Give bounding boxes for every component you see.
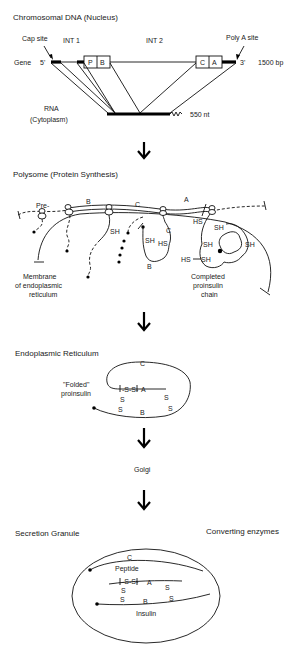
s-label: S xyxy=(168,405,173,412)
down-arrow-icon xyxy=(138,312,150,330)
folded-label-1: "Folded" xyxy=(63,381,90,388)
exon-b-label: B xyxy=(100,59,105,66)
s-label: S xyxy=(120,596,125,603)
cap-site-label: Cap site xyxy=(22,35,48,43)
s-label: S xyxy=(120,396,125,403)
gene-section-title: Chromosomal DNA (Nucleus) xyxy=(13,13,118,22)
folded-label-2: proinsulin xyxy=(61,390,91,398)
insulin-label: Insulin xyxy=(136,610,156,617)
sh-label: SH xyxy=(203,241,213,248)
five-prime-label: 5' xyxy=(40,59,45,66)
mrna-3-dashed xyxy=(212,206,265,211)
sh-label: SH xyxy=(245,241,255,248)
golgi-label: Golgi xyxy=(134,466,151,474)
cap-arrowhead-icon xyxy=(49,54,53,60)
granule-contents: C Peptide -S-S- A S S S S B Insulin xyxy=(88,554,210,617)
polysome-c-label: C xyxy=(135,201,140,208)
s-label: S xyxy=(165,584,170,591)
exon-a-label: A xyxy=(212,59,217,66)
sh-label: SH xyxy=(214,224,224,231)
exon-p-label: P xyxy=(88,59,93,66)
sh-label: SH xyxy=(145,237,155,244)
poly-a-site-label: Poly A site xyxy=(226,34,258,42)
secretion-granule-outline xyxy=(72,549,220,643)
chain-c-label: C xyxy=(166,227,171,234)
hs-label: HS xyxy=(158,240,168,247)
chain-b-label: B xyxy=(147,263,152,270)
polysome-b-label: B xyxy=(86,198,91,205)
peptide-label: Peptide xyxy=(115,565,139,573)
s-label: S xyxy=(164,394,169,401)
stop-marker xyxy=(202,204,206,216)
splicing-lines xyxy=(51,63,236,113)
completed-label-1: Completed xyxy=(191,273,225,281)
er-section-title: Endoplasmic Reticulum xyxy=(15,349,99,358)
three-prime-label: 3' xyxy=(240,59,245,66)
down-arrow-icon xyxy=(138,428,150,447)
pre-label: Pre- xyxy=(36,202,50,209)
sh-label: SH xyxy=(201,256,211,263)
granule-b-label: B xyxy=(143,598,148,605)
completed-label-3: chain xyxy=(201,291,218,298)
membrane-label-3: reticulum xyxy=(29,291,58,298)
converting-enzymes-label: Converting enzymes xyxy=(206,527,279,536)
sh-label: SH xyxy=(110,228,120,235)
nascent-chains: SH SH HS C B xyxy=(32,215,171,279)
mrna-3-end-cap xyxy=(264,201,266,210)
s-label: S xyxy=(121,587,126,594)
rna-sub-label: (Cytoplasm) xyxy=(30,116,68,124)
granule-c-label: C xyxy=(127,554,132,561)
down-arrow-icon xyxy=(138,490,150,509)
rna-label: RNA xyxy=(44,105,59,112)
cap-site-pointer xyxy=(44,46,51,58)
er-c-label: C xyxy=(140,360,145,367)
exon-c-label: C xyxy=(200,59,205,66)
ss-bridge-label: -S-S- xyxy=(122,578,139,585)
membrane-label-1: Membrane xyxy=(23,273,57,280)
er-b-label: B xyxy=(140,409,145,416)
s-label: S xyxy=(118,406,123,413)
poly-a-tail xyxy=(170,112,182,116)
membrane-label-2: of endoplasmic xyxy=(15,282,63,290)
insulin-biosynthesis-diagram: Chromosomal DNA (Nucleus) Cap site INT 1… xyxy=(0,0,294,648)
polysome-a-label: A xyxy=(184,196,189,203)
hs-label: HS xyxy=(181,256,191,263)
er-a-label: A xyxy=(141,386,146,393)
down-arrow-icon xyxy=(138,142,150,158)
int1-label: INT 1 xyxy=(63,37,80,44)
completed-chain: HS SH SH SH HS SH xyxy=(181,214,255,268)
rna-size-label: 550 nt xyxy=(190,111,210,118)
granule-a-label: A xyxy=(147,579,152,586)
int2-label: INT 2 xyxy=(146,37,163,44)
gene-label: Gene xyxy=(14,59,31,66)
ss-bridge-label: -S-S- xyxy=(122,386,139,393)
granule-section-title: Secretion Granule xyxy=(15,529,80,538)
hs-label: HS xyxy=(193,218,203,225)
er-membrane xyxy=(38,213,271,292)
polysome-section-title: Polysome (Protein Synthesis) xyxy=(13,170,118,179)
s-label: S xyxy=(169,595,174,602)
gene-size-label: 1500 bp xyxy=(258,59,283,67)
folded-proinsulin: -S-S- A C B S S S S xyxy=(92,360,190,418)
completed-label-2: proinsulin xyxy=(193,282,223,290)
